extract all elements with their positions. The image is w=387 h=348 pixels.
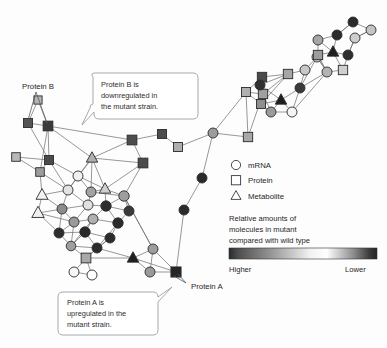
network-node-mrna <box>69 267 79 277</box>
callout-a-line1: Protein A is <box>67 298 104 307</box>
scale-title-line1: Relative amounts of <box>229 214 297 223</box>
network-node-mrna <box>208 128 218 138</box>
network-edge <box>178 133 213 147</box>
network-node-metabolite <box>99 183 111 193</box>
network-node-mrna <box>101 201 111 211</box>
network-node-protein <box>81 253 91 263</box>
network-figure: Protein B is downregulated in the mutant… <box>0 0 387 348</box>
circle-icon <box>231 160 240 169</box>
network-node-mrna <box>322 67 332 77</box>
network-node-mrna <box>87 270 97 280</box>
scale-title-line2: molecules in mutant <box>229 225 297 234</box>
callout-b-line1: Protein B is <box>101 80 139 89</box>
network-edge <box>92 140 132 158</box>
network-node-mrna <box>148 244 158 254</box>
network-node-mrna <box>295 83 305 93</box>
network-node-mrna <box>63 185 73 195</box>
network-node-metabolite <box>32 206 44 217</box>
network-edge <box>105 163 143 189</box>
protein-b-label: Protein B <box>22 82 54 91</box>
network-edge <box>97 248 133 258</box>
abundance-gradient-bar <box>229 248 377 259</box>
network-node-mrna <box>343 50 353 60</box>
triangle-icon <box>231 191 241 200</box>
network-node-mrna <box>348 17 358 27</box>
scale-label-lower: Lower <box>345 265 366 274</box>
callout-protein-a: Protein A is upregulated in the mutant s… <box>58 287 172 335</box>
network-node-mrna <box>57 204 67 214</box>
network-edge <box>48 126 92 158</box>
callout-b-line3: the mutant strain. <box>101 102 158 111</box>
square-icon <box>231 176 240 185</box>
network-node-mrna <box>313 35 323 45</box>
legend-label-protein: Protein <box>248 176 273 185</box>
network-edge <box>92 158 143 163</box>
network-edge <box>124 196 153 249</box>
network-edge <box>213 92 246 133</box>
network-edge <box>246 92 248 137</box>
protein-a-label: Protein A <box>191 282 223 291</box>
network-node-mrna <box>73 171 83 181</box>
network-node-mrna <box>145 267 155 277</box>
network-edge <box>92 158 105 189</box>
network-node-mrna <box>80 227 90 237</box>
network-node-mrna <box>197 173 207 183</box>
network-node-protein <box>158 130 167 139</box>
network-node-mrna <box>83 200 93 210</box>
network-node-mrna <box>66 241 76 251</box>
network-node-metabolite <box>275 94 287 104</box>
network-node-protein <box>12 153 21 162</box>
network-node-protein <box>257 100 266 109</box>
network-node-mrna <box>92 243 102 253</box>
network-node-protein <box>174 143 183 152</box>
network-edge <box>184 178 202 210</box>
network-node-mrna <box>287 107 297 117</box>
legend-symbols <box>231 160 241 199</box>
network-node-protein <box>283 69 292 78</box>
network-node-mrna <box>54 228 64 238</box>
network-graph: Protein B is downregulated in the mutant… <box>0 0 387 348</box>
callout-b-line2: downregulated in <box>101 91 157 100</box>
network-node-protein <box>127 135 137 145</box>
network-node-mrna <box>300 65 310 75</box>
network-node-protein <box>45 156 54 165</box>
callout-a-line2: upregulated in the <box>67 309 126 318</box>
network-node-metabolite <box>86 152 98 162</box>
network-node-mrna <box>350 33 360 43</box>
network-node-mrna <box>88 214 98 224</box>
network-node-protein <box>243 132 252 141</box>
network-node-protein <box>242 88 251 97</box>
network-edge <box>48 126 132 140</box>
network-node-protein <box>338 65 347 74</box>
scale-label-higher: Higher <box>229 265 252 274</box>
network-node-protein <box>43 121 53 131</box>
network-node-mrna <box>119 191 129 201</box>
network-node-protein <box>36 168 45 177</box>
callout-protein-b: Protein B is downregulated in the mutant… <box>82 73 198 125</box>
network-edge <box>202 133 213 178</box>
network-node-mrna <box>69 217 79 227</box>
network-node-mrna <box>86 187 96 197</box>
network-node-mrna <box>113 218 123 228</box>
network-node-protein <box>313 50 322 59</box>
network-node-protein <box>138 158 148 168</box>
network-node-mrna <box>255 80 265 90</box>
legend-label-metabolite: Metabolite <box>248 192 284 201</box>
network-edge <box>16 157 49 160</box>
network-node-protein <box>258 89 267 98</box>
network-edge <box>176 210 184 272</box>
network-node-mrna <box>124 206 134 216</box>
scale-title-line3: compared with wild type <box>229 236 310 245</box>
network-node-mrna <box>332 30 342 40</box>
legend-label-mrna: mRNA <box>248 161 272 170</box>
network-edge <box>40 126 48 172</box>
network-node-mrna <box>179 205 189 215</box>
callout-a-line3: mutant strain. <box>67 320 112 329</box>
network-node-mrna <box>366 25 376 35</box>
network-node-metabolite <box>327 46 339 56</box>
network-node-mrna <box>266 107 276 117</box>
network-node-mrna <box>105 233 115 243</box>
